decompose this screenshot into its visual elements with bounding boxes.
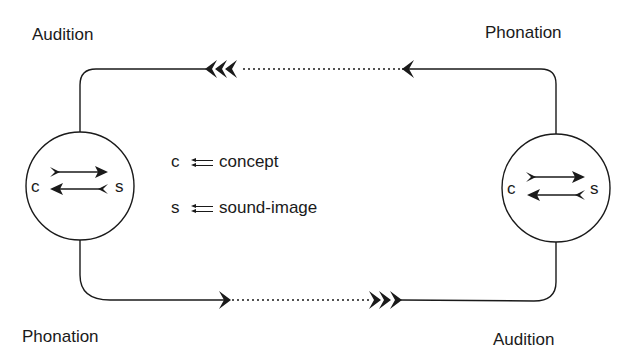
left-circle-sound-letter: s xyxy=(115,178,124,195)
legend-meaning-concept: concept xyxy=(219,152,279,171)
label-top-left-audition: Audition xyxy=(32,26,93,43)
left-circle-concept-letter: c xyxy=(31,178,40,195)
top-triple-arrowhead-icon xyxy=(205,60,237,78)
label-bottom-right-audition: Audition xyxy=(493,331,554,348)
right-circle-arrows xyxy=(526,171,585,201)
label-bottom-left-phonation: Phonation xyxy=(22,328,99,345)
legend-symbol-s: s xyxy=(171,199,189,216)
speech-circuit-diagram xyxy=(0,0,634,364)
label-top-right-phonation: Phonation xyxy=(485,24,562,41)
left-circle-arrows xyxy=(50,166,108,195)
top-path xyxy=(80,69,556,134)
legend-meaning-sound-image: sound-image xyxy=(219,198,317,217)
bottom-triple-arrowhead-icon xyxy=(369,291,402,309)
legend-sound-image: ssound-image xyxy=(171,199,317,216)
right-circle-sound-letter: s xyxy=(590,180,599,197)
double-left-arrow-icon xyxy=(191,204,213,214)
bottom-path xyxy=(80,240,556,301)
double-left-arrow-icon xyxy=(191,158,213,168)
right-circle-concept-letter: c xyxy=(507,180,516,197)
legend-symbol-c: c xyxy=(171,153,189,170)
legend-concept: cconcept xyxy=(171,153,279,170)
